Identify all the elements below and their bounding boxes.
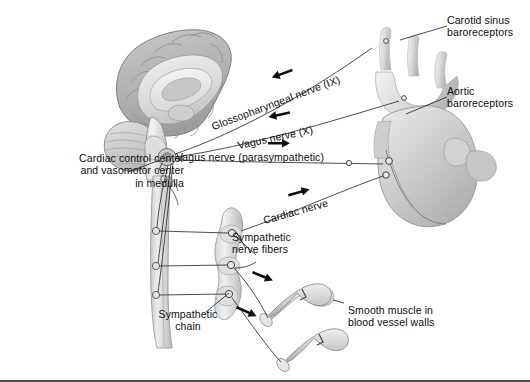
preganglionic-fiber-1 (159, 231, 228, 233)
label-aortic-baroreceptors: Aortic baroreceptors (447, 85, 513, 110)
label-sympathetic-nerve-fibers: Sympathetic nerve fibers (232, 231, 291, 256)
arrow-cardiac-nerve (287, 185, 311, 199)
label-sympathetic-chain: Sympathetic chain (148, 308, 228, 333)
label-carotid-sinus-baroreceptors: Carotid sinus baroreceptors (447, 14, 513, 39)
label-vagus-nerve-parasympathetic: Vagus nerve (parasympathetic) (176, 151, 324, 163)
anatomy-illustration (0, 0, 530, 382)
label-smooth-muscle: Smooth muscle in blood vessel walls (348, 304, 434, 329)
arrow-sympathetic-vessel-upper (251, 268, 275, 284)
diagram-canvas: Cardiac control center and vasomotor cen… (0, 0, 530, 382)
preganglionic-fiber-3 (159, 294, 225, 295)
sympathetic-chain-ganglia (215, 208, 243, 320)
arrow-glossopharyngeal-afferent (270, 66, 294, 82)
leader-carotid-sinus (400, 26, 447, 40)
blood-vessel-branches (257, 284, 348, 374)
heart-structure (374, 27, 496, 226)
leader-smooth-muscle (333, 300, 344, 303)
label-cardiac-control-center: Cardiac control center and vasomotor cen… (6, 152, 184, 189)
